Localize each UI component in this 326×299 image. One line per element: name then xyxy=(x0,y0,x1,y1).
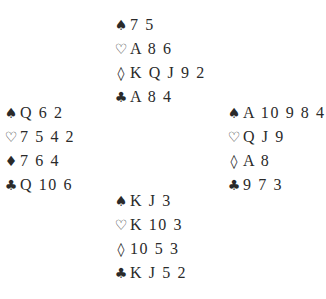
spade-icon: ♠ xyxy=(227,101,241,125)
west-hearts: ♡ 7 5 4 2 xyxy=(4,125,75,149)
north-spades-cards: 7 5 xyxy=(130,13,155,37)
south-diamonds-cards: 10 5 3 xyxy=(130,237,180,261)
east-clubs: ♣ 9 7 3 xyxy=(227,173,326,197)
west-hand: ♠ Q 6 2 ♡ 7 5 4 2 ♦ 7 6 4 ♣ Q 10 6 xyxy=(4,101,75,197)
club-icon: ♣ xyxy=(227,173,241,197)
heart-icon: ♡ xyxy=(4,125,18,149)
south-spades: ♠ K J 3 xyxy=(114,189,187,213)
east-spades: ♠ A 10 9 8 4 xyxy=(227,101,326,125)
diamond-icon: ◊ xyxy=(114,61,128,85)
north-clubs-cards: A 8 4 xyxy=(130,85,173,109)
south-hearts-cards: K 10 3 xyxy=(130,213,183,237)
west-diamonds: ♦ 7 6 4 xyxy=(4,149,75,173)
club-icon: ♣ xyxy=(114,85,128,109)
west-clubs: ♣ Q 10 6 xyxy=(4,173,75,197)
west-spades: ♠ Q 6 2 xyxy=(4,101,75,125)
south-hearts: ♡ K 10 3 xyxy=(114,213,187,237)
north-clubs: ♣ A 8 4 xyxy=(114,85,206,109)
north-spades: ♠ 7 5 xyxy=(114,13,206,37)
diamond-icon: ◊ xyxy=(114,237,128,261)
south-clubs: ♣ K J 5 2 xyxy=(114,261,187,285)
spade-icon: ♠ xyxy=(114,13,128,37)
south-hand: ♠ K J 3 ♡ K 10 3 ◊ 10 5 3 ♣ K J 5 2 xyxy=(114,189,187,285)
west-clubs-cards: Q 10 6 xyxy=(20,173,73,197)
diamond-icon: ♦ xyxy=(4,149,18,173)
heart-icon: ♡ xyxy=(114,37,128,61)
east-clubs-cards: 9 7 3 xyxy=(243,173,283,197)
east-hearts-cards: Q J 9 xyxy=(243,125,285,149)
west-spades-cards: Q 6 2 xyxy=(20,101,64,125)
north-diamonds-cards: K Q J 9 2 xyxy=(130,61,206,85)
north-hand: ♠ 7 5 ♡ A 8 6 ◊ K Q J 9 2 ♣ A 8 4 xyxy=(114,13,206,109)
north-hearts: ♡ A 8 6 xyxy=(114,37,206,61)
east-diamonds: ◊ A 8 xyxy=(227,149,326,173)
east-hearts: ♡ Q J 9 xyxy=(227,125,326,149)
heart-icon: ♡ xyxy=(114,213,128,237)
club-icon: ♣ xyxy=(114,261,128,285)
north-hearts-cards: A 8 6 xyxy=(130,37,173,61)
spade-icon: ♠ xyxy=(4,101,18,125)
south-clubs-cards: K J 5 2 xyxy=(130,261,187,285)
diamond-icon: ◊ xyxy=(227,149,241,173)
south-diamonds: ◊ 10 5 3 xyxy=(114,237,187,261)
spade-icon: ♠ xyxy=(114,189,128,213)
heart-icon: ♡ xyxy=(227,125,241,149)
west-diamonds-cards: 7 6 4 xyxy=(20,149,60,173)
north-diamonds: ◊ K Q J 9 2 xyxy=(114,61,206,85)
west-hearts-cards: 7 5 4 2 xyxy=(20,125,75,149)
east-hand: ♠ A 10 9 8 4 ♡ Q J 9 ◊ A 8 ♣ 9 7 3 xyxy=(227,101,326,197)
club-icon: ♣ xyxy=(4,173,18,197)
east-diamonds-cards: A 8 xyxy=(243,149,270,173)
south-spades-cards: K J 3 xyxy=(130,189,172,213)
east-spades-cards: A 10 9 8 4 xyxy=(243,101,326,125)
